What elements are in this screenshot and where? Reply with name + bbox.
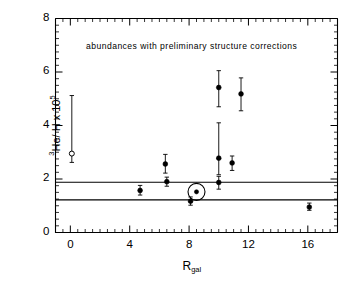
data-point-group <box>164 177 169 186</box>
data-point-group <box>69 96 74 163</box>
data-point-group <box>216 123 221 175</box>
data-point-group <box>216 71 221 107</box>
data-marker-filled-circle <box>216 85 221 90</box>
data-point-group <box>307 203 312 210</box>
data-point-group <box>216 176 221 189</box>
data-point-group <box>230 156 235 170</box>
data-marker-filled-circle <box>216 180 221 185</box>
chart-canvas <box>0 0 363 282</box>
data-marker-filled-circle <box>307 205 312 210</box>
data-point-group <box>163 154 168 173</box>
data-point-group <box>188 183 205 200</box>
solar-symbol-dot <box>194 190 198 194</box>
data-marker-open-circle <box>69 151 74 156</box>
data-marker-filled-circle <box>138 188 143 193</box>
data-point-group <box>138 185 143 195</box>
data-marker-filled-circle <box>230 161 235 166</box>
data-marker-filled-circle <box>163 162 168 167</box>
data-marker-filled-circle <box>216 156 221 161</box>
data-marker-filled-circle <box>239 92 244 97</box>
figure-3he-abundance-vs-galactocentric-radius: 048121602468abundances with preliminary … <box>0 0 363 282</box>
data-point-group <box>239 78 244 111</box>
data-marker-filled-circle <box>164 179 169 184</box>
